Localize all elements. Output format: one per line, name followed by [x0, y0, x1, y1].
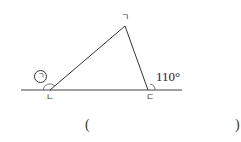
answer-open-paren: (	[85, 118, 90, 132]
side-right	[125, 26, 148, 90]
vertex-label-bottom-left: ㄴ	[46, 93, 54, 102]
vertex-label-bottom-right: ㄷ	[146, 93, 154, 102]
exterior-angle-arc-right	[150, 84, 155, 90]
vertex-label-top: ㄱ	[121, 13, 129, 22]
side-left	[50, 26, 125, 90]
answer-blank[interactable]	[95, 118, 230, 134]
given-angle-label: 110°	[156, 70, 180, 83]
answer-close-paren: )	[235, 118, 240, 132]
unknown-angle-label: ㄱ	[34, 70, 47, 83]
